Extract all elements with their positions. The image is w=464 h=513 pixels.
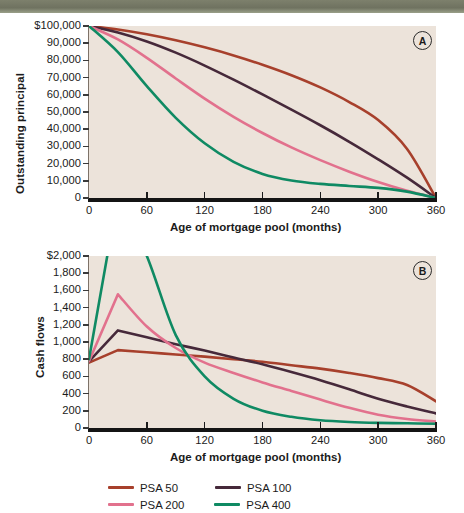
x-tick-mark (377, 422, 379, 428)
page-top-strip (0, 0, 464, 13)
x-tick-mark (204, 192, 206, 198)
y-tick-label: 0 (5, 422, 81, 433)
y-tick-label: 90,000 (5, 37, 81, 48)
legend-swatch-psa-100 (215, 486, 241, 489)
x-tick-mark (262, 192, 264, 198)
chart-page: Outstanding principal A Age of mortgage … (0, 0, 464, 513)
x-tick-label: 0 (69, 435, 109, 446)
x-tick-mark (204, 422, 206, 428)
y-tick-label: 1,400 (5, 302, 81, 313)
x-tick-label: 60 (127, 435, 167, 446)
y-tick-mark (83, 341, 89, 343)
y-tick-label: 200 (5, 405, 81, 416)
series-line-psa-200 (89, 294, 436, 421)
x-tick-label: 120 (185, 435, 225, 446)
x-tick-label: 120 (185, 205, 225, 216)
y-tick-label: 1,600 (5, 284, 81, 295)
series-line-psa-400 (89, 26, 436, 198)
panel-badge-b: B (413, 261, 432, 280)
y-tick-mark (83, 60, 89, 62)
y-tick-mark (83, 376, 89, 378)
x-tick-label: 180 (243, 435, 283, 446)
series-line-psa-200 (89, 26, 436, 198)
legend-swatch-psa-200 (108, 503, 134, 506)
x-tick-mark (262, 422, 264, 428)
y-tick-label: 1,200 (5, 319, 81, 330)
legend-label-psa-400: PSA 400 (246, 499, 290, 511)
x-tick-label: 300 (358, 435, 398, 446)
legend-label-psa-200: PSA 200 (140, 499, 184, 511)
x-tick-mark (435, 192, 437, 198)
x-tick-mark (320, 192, 322, 198)
x-tick-label: 240 (300, 205, 340, 216)
y-tick-mark (83, 94, 89, 96)
series-line-psa-50 (89, 26, 436, 198)
y-tick-label: $100,000 (5, 20, 81, 31)
series-line-psa-100 (89, 330, 436, 413)
y-tick-label: 1,000 (5, 336, 81, 347)
y-tick-label: 800 (5, 353, 81, 364)
y-tick-mark (83, 146, 89, 148)
legend-label-psa-100: PSA 100 (247, 482, 291, 494)
legend-row-2: PSA 200 PSA 400 (108, 497, 291, 512)
y-tick-mark (83, 163, 89, 165)
chart-panel-b: Cash flows B Age of mortgage pool (month… (0, 248, 464, 460)
y-tick-label: 400 (5, 388, 81, 399)
y-tick-label: 20,000 (5, 158, 81, 169)
y-tick-mark (83, 197, 89, 199)
legend-label-psa-50: PSA 50 (140, 482, 178, 494)
y-tick-mark (83, 180, 89, 182)
y-tick-mark (83, 324, 89, 326)
panel-badge-a: A (413, 31, 432, 50)
x-tick-mark (146, 192, 148, 198)
x-tick-label: 0 (69, 205, 109, 216)
y-tick-label: 50,000 (5, 106, 81, 117)
legend-row-1: PSA 50 PSA 100 (108, 480, 291, 495)
x-tick-label: 360 (416, 205, 456, 216)
y-tick-mark (83, 410, 89, 412)
y-tick-label: 60,000 (5, 89, 81, 100)
legend-item-psa-200: PSA 200 (108, 499, 184, 511)
legend-item-psa-400: PSA 400 (214, 499, 290, 511)
series-line-psa-50 (89, 350, 436, 401)
y-tick-mark (83, 255, 89, 257)
y-tick-mark (83, 111, 89, 113)
y-tick-label: 0 (5, 192, 81, 203)
chart-legend: PSA 50 PSA 100 PSA 200 PSA 400 (108, 480, 358, 513)
x-tick-label: 360 (416, 435, 456, 446)
x-tick-mark (435, 422, 437, 428)
x-tick-mark (377, 192, 379, 198)
y-tick-label: 1,800 (5, 267, 81, 278)
x-axis-title-a: Age of mortgage pool (months) (170, 221, 341, 233)
legend-swatch-psa-400 (214, 503, 240, 506)
y-tick-label: 70,000 (5, 72, 81, 83)
y-tick-mark (83, 307, 89, 309)
x-tick-mark (146, 422, 148, 428)
y-tick-mark (83, 77, 89, 79)
y-tick-mark (83, 272, 89, 274)
x-axis-title-b: Age of mortgage pool (months) (170, 451, 341, 463)
x-tick-label: 300 (358, 205, 398, 216)
legend-item-psa-100: PSA 100 (215, 482, 291, 494)
y-tick-label: 600 (5, 370, 81, 381)
y-tick-mark (83, 358, 89, 360)
x-tick-label: 180 (243, 205, 283, 216)
x-tick-label: 240 (300, 435, 340, 446)
chart-panel-a: Outstanding principal A Age of mortgage … (0, 18, 464, 233)
y-tick-label: 10,000 (5, 175, 81, 186)
series-line-psa-100 (89, 26, 436, 198)
y-tick-mark (83, 42, 89, 44)
y-tick-label: 30,000 (5, 140, 81, 151)
y-tick-mark (83, 393, 89, 395)
y-tick-mark (83, 290, 89, 292)
y-tick-mark (83, 128, 89, 130)
x-tick-mark (320, 422, 322, 428)
x-tick-label: 60 (127, 205, 167, 216)
y-tick-label: 80,000 (5, 54, 81, 65)
y-tick-label: $2,000 (5, 250, 81, 261)
legend-item-psa-50: PSA 50 (108, 482, 178, 494)
y-tick-mark (83, 427, 89, 429)
y-tick-mark (83, 25, 89, 27)
legend-swatch-psa-50 (108, 486, 134, 489)
y-tick-label: 40,000 (5, 123, 81, 134)
